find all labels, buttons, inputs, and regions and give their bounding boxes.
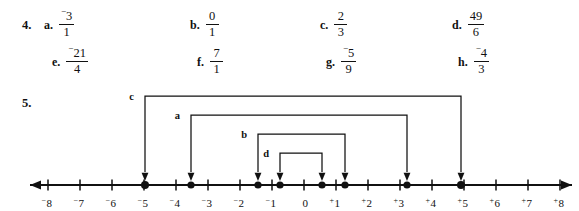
fraction-numerator: 7: [211, 47, 221, 61]
fraction: 01: [206, 10, 219, 38]
fraction-numerator-value: 7: [213, 46, 219, 60]
fraction-item-letter: b.: [190, 10, 206, 31]
axis-tick-label-value: 5: [143, 197, 149, 209]
bracket-arc-arrowhead: [404, 173, 411, 181]
axis-tick-label-value: 7: [79, 197, 85, 209]
axis-tick-label: −2: [234, 196, 245, 209]
negative-sign: −: [343, 43, 348, 53]
axis-tick-label-value: 5: [463, 197, 469, 209]
fraction-item: h.−43: [458, 47, 489, 75]
fraction-item-letter: e.: [52, 47, 66, 68]
axis-tick-label: +6: [490, 196, 501, 209]
fraction-denominator: 3: [336, 25, 346, 39]
axis-tick-label: −3: [202, 196, 213, 209]
axis-tick-label: −8: [42, 196, 53, 209]
axis-left-arrowhead: [30, 180, 41, 189]
number-line-point: [141, 181, 149, 189]
fraction-item-letter: d.: [452, 10, 468, 31]
bracket-arc-arrowhead: [255, 173, 262, 181]
axis-tick-label-value: 8: [559, 197, 565, 209]
axis-right-arrowhead: [561, 180, 572, 189]
fraction-denominator: 6: [471, 25, 481, 39]
fraction-numerator: −21: [66, 47, 88, 61]
fraction-denominator: 9: [344, 62, 354, 76]
number-line-point: [254, 181, 261, 188]
fraction-numerator-value: 4: [481, 46, 487, 60]
fraction-numerator-value: 21: [73, 46, 86, 60]
number-line-point: [276, 181, 283, 188]
bracket-arc-arrowhead: [319, 173, 326, 181]
fraction-item: g.−59: [326, 47, 356, 75]
axis-tick-label-value: 2: [239, 197, 245, 209]
bracket-arc-shaft: [191, 115, 407, 172]
fraction-denominator: 1: [211, 62, 221, 76]
axis-tick-label-value: 7: [527, 197, 533, 209]
bracket-arc-label: b: [241, 129, 247, 140]
bracket-arc-arrowhead: [142, 173, 149, 181]
fraction: −43: [474, 47, 489, 75]
fraction: 23: [334, 10, 347, 38]
fraction-item: c.23: [320, 10, 347, 38]
bracket-arc: a: [175, 110, 411, 181]
exercise-4-number: 4.: [22, 18, 31, 33]
fraction-item-letter: c.: [320, 10, 334, 31]
axis-tick-label-value: 3: [207, 197, 213, 209]
fraction-numerator-value: 0: [209, 9, 215, 23]
negative-sign: −: [61, 6, 66, 16]
bracket-arc-arrowhead: [277, 173, 284, 181]
axis-tick-label-value: 1: [335, 197, 341, 209]
fraction-item-letter: g.: [326, 47, 341, 68]
axis-tick-label-value: 8: [47, 197, 53, 209]
bracket-arc: d: [263, 148, 325, 181]
bracket-arc: c: [129, 91, 464, 181]
negative-sign: −: [476, 43, 481, 53]
fraction-numerator: −4: [474, 47, 489, 61]
fraction-numerator-value: 2: [338, 9, 344, 23]
exercise-5: 5. −8−7−6−5−4−3−2−10+1+2+3+4+5+6+7+8cabd: [0, 84, 579, 211]
negative-sign: −: [68, 43, 73, 53]
fraction-item: e.−214: [52, 47, 88, 75]
fraction-numerator-value: 3: [66, 9, 72, 23]
axis-tick-label-value: 2: [367, 197, 373, 209]
bracket-arc: b: [241, 129, 348, 181]
fraction-numerator: −5: [341, 47, 356, 61]
worksheet-page: { "exercise4": { "number": "4.", "items"…: [0, 0, 579, 211]
number-line-point: [341, 181, 348, 188]
axis-tick-label: 0: [303, 197, 309, 209]
fraction: −214: [66, 47, 88, 75]
number-line-point: [318, 181, 325, 188]
fraction: −59: [341, 47, 356, 75]
axis-tick-label: +3: [394, 196, 405, 209]
axis-tick-label: −6: [106, 196, 117, 209]
bracket-arc-label: a: [175, 110, 181, 121]
bracket-arc-arrowhead: [342, 173, 349, 181]
fraction: 71: [210, 47, 223, 75]
fraction-denominator: 1: [62, 25, 72, 39]
fraction-item-letter: h.: [458, 47, 474, 68]
fraction-numerator-value: 5: [348, 46, 354, 60]
axis-tick-label-value: 4: [431, 197, 437, 209]
axis-tick-label: −1: [266, 196, 277, 209]
number-line-point: [403, 181, 410, 188]
fraction-item: d.496: [452, 10, 484, 38]
bracket-arc-label: d: [263, 148, 269, 159]
fraction: 496: [468, 10, 485, 38]
axis-tick-label: +2: [362, 196, 373, 209]
axis-tick-label: +1: [330, 196, 341, 209]
fraction-item-letter: a.: [44, 10, 59, 31]
bracket-arc-label: c: [129, 91, 134, 102]
axis-tick-label-value: 1: [271, 197, 277, 209]
fraction-item: f.71: [197, 47, 223, 75]
axis-tick-label: −4: [170, 196, 181, 209]
fraction-numerator: −3: [59, 10, 74, 24]
exercise-4: 4. a.−31b.01c.23d.496e.−214f.71g.−59h.−4…: [0, 0, 579, 84]
number-line-point: [457, 181, 465, 189]
number-line-point: [187, 181, 194, 188]
fraction-denominator: 4: [72, 62, 82, 76]
bracket-arc-shaft: [280, 153, 322, 172]
fraction-numerator: 0: [207, 10, 217, 24]
axis-tick-label-value: 4: [175, 197, 181, 209]
axis-tick-label: +4: [426, 196, 437, 209]
axis-tick-label-value: 6: [495, 197, 501, 209]
number-line-diagram: −8−7−6−5−4−3−2−10+1+2+3+4+5+6+7+8cabd: [0, 84, 579, 211]
